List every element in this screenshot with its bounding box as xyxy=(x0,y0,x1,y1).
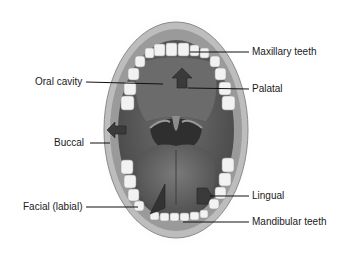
label-maxillary-teeth: Maxillary teeth xyxy=(252,46,316,58)
label-palatal: Palatal xyxy=(252,83,283,95)
mouth-diagram: Maxillary teeth Oral cavity Palatal Bucc… xyxy=(0,0,347,258)
label-facial-labial: Facial (labial) xyxy=(23,201,82,213)
label-oral-cavity: Oral cavity xyxy=(35,76,82,88)
label-lingual: Lingual xyxy=(252,190,284,202)
palate xyxy=(135,57,216,122)
label-mandibular-teeth: Mandibular teeth xyxy=(252,216,327,228)
label-buccal: Buccal xyxy=(54,137,84,149)
